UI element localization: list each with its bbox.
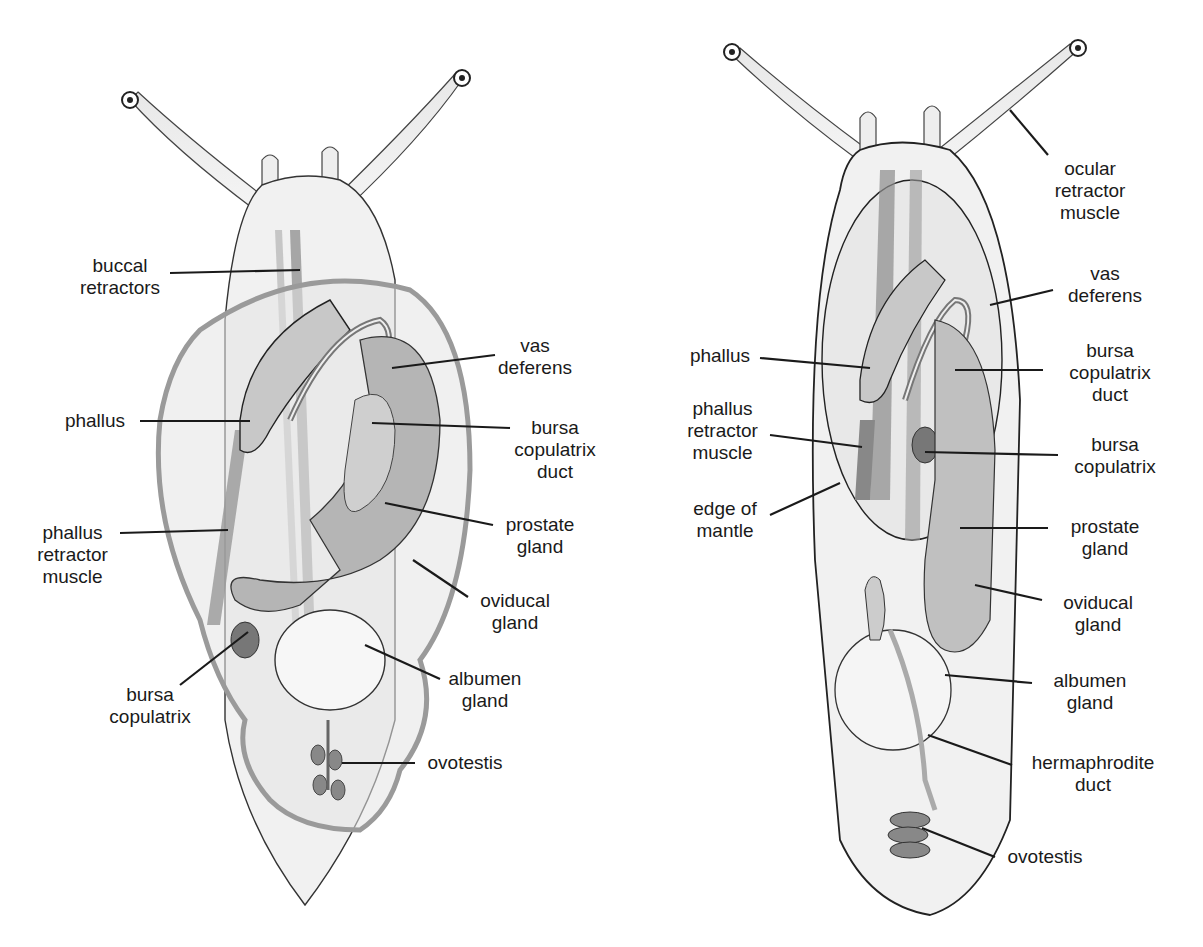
label-hermaphrodite-duct: hermaphrodite duct bbox=[1018, 752, 1168, 796]
label-ovotestis: ovotestis bbox=[420, 752, 510, 774]
label-phallus-retractor-muscle: phallus retractor muscle bbox=[25, 522, 120, 588]
albumen-gland-r bbox=[835, 630, 951, 750]
label-bursa-copulatrix-duct-r: bursa copulatrix duct bbox=[1055, 340, 1165, 406]
left-eye-tentacle bbox=[130, 92, 268, 210]
label-bursa-copulatrix-duct: bursa copulatrix duct bbox=[510, 417, 600, 483]
label-vas-deferens: vas deferens bbox=[490, 335, 580, 379]
label-albumen-gland: albumen gland bbox=[440, 668, 530, 712]
label-oviducal-gland: oviducal gland bbox=[470, 590, 560, 634]
label-ocular-retractor-muscle: ocular retractor muscle bbox=[1040, 158, 1140, 224]
label-oviducal-gland-r: oviducal gland bbox=[1048, 592, 1148, 636]
left-eye-tentacle-r bbox=[732, 48, 868, 160]
bursa-copulatrix-r bbox=[912, 427, 938, 463]
ovotestis-r bbox=[888, 812, 930, 858]
label-buccal-retractors: buccal retractors bbox=[70, 255, 170, 299]
label-prostate-gland-r: prostate gland bbox=[1055, 516, 1155, 560]
albumen-gland bbox=[275, 610, 385, 710]
label-prostate-gland: prostate gland bbox=[495, 514, 585, 558]
label-phallus: phallus bbox=[50, 410, 140, 432]
label-phallus-retractor-muscle-r: phallus retractor muscle bbox=[675, 398, 770, 464]
label-ovotestis-r: ovotestis bbox=[995, 846, 1095, 868]
label-phallus-r: phallus bbox=[680, 345, 760, 367]
label-vas-deferens-r: vas deferens bbox=[1060, 263, 1150, 307]
label-edge-of-mantle: edge of mantle bbox=[680, 498, 770, 542]
label-albumen-gland-r: albumen gland bbox=[1040, 670, 1140, 714]
label-bursa-copulatrix-r: bursa copulatrix bbox=[1060, 434, 1170, 478]
bursa-copulatrix bbox=[231, 622, 259, 658]
label-bursa-copulatrix: bursa copulatrix bbox=[100, 684, 200, 728]
snail-slug-anatomy-diagram bbox=[0, 0, 1203, 947]
snail-figure bbox=[122, 70, 470, 905]
